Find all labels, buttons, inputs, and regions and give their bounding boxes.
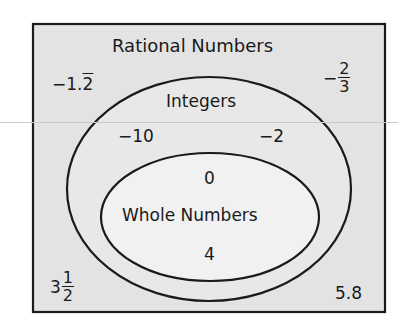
fraction: 2 3 [338, 61, 350, 95]
denominator: 3 [339, 78, 349, 95]
whole-numbers-label: Whole Numbers [122, 207, 258, 224]
whole-part: 3 [50, 279, 61, 296]
minus-sign: − [323, 70, 337, 87]
minus-sign: − [52, 74, 66, 94]
member-0: 0 [204, 170, 215, 187]
scan-artifact-line [0, 122, 398, 123]
member-three-and-one-half: 3 1 2 [50, 270, 74, 304]
fraction: 1 2 [62, 270, 74, 304]
numerator: 2 [338, 61, 350, 78]
member-4: 4 [204, 246, 215, 263]
numerator: 1 [62, 270, 74, 287]
repeating-digit: 2 [82, 74, 93, 94]
member-5-point-8: 5.8 [335, 285, 362, 302]
member-negative-1-point-2-repeating: −1.2 [52, 76, 93, 93]
integers-label: Integers [166, 93, 236, 110]
rational-numbers-label: Rational Numbers [112, 37, 273, 55]
member-negative-2: −2 [259, 128, 284, 145]
member-negative-10: −10 [118, 128, 154, 145]
decimal-part: 1. [66, 74, 82, 94]
denominator: 2 [63, 287, 73, 304]
member-negative-two-thirds: − 2 3 [323, 61, 350, 95]
